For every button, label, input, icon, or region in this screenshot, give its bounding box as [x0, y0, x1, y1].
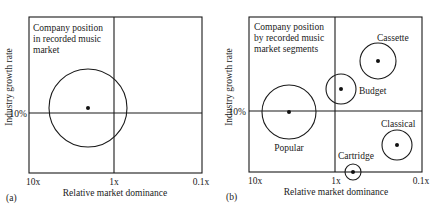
panel-title-line: in recorded music: [33, 34, 101, 44]
x-tick-a-0.1x: 0.1x: [193, 177, 210, 187]
x-tick-b-0.1x: 0.1x: [413, 176, 430, 186]
panel-title-line: by recorded music: [254, 33, 324, 43]
panel-b: Company position by recorded music marke…: [224, 17, 430, 203]
bubble-label-cartridge: Cartridge: [338, 151, 374, 161]
bubble-label-budget: Budget: [359, 86, 387, 96]
x-tick-b-10x: 10x: [248, 176, 263, 186]
x-tick-a-10x: 10x: [26, 177, 41, 187]
market-bubble-center: [86, 106, 90, 110]
bubble-popular-center: [287, 110, 291, 114]
panel-title-line: market segments: [254, 44, 318, 54]
panel-title-line: market: [33, 45, 60, 55]
bubble-budget-center: [339, 87, 343, 91]
x-tick-b-1x: 1x: [331, 176, 341, 186]
x-axis-label-a: Relative market dominance: [63, 188, 167, 198]
x-axis-label-b: Relative market dominance: [284, 187, 388, 197]
y-tick-b: 10%: [229, 107, 247, 117]
growth-share-diagram: Company position in recorded music marke…: [0, 0, 441, 211]
bubble-label-popular: Popular: [274, 143, 304, 153]
panel-title-line: Company position: [254, 22, 324, 32]
panel-a: Company position in recorded music marke…: [4, 17, 210, 204]
x-tick-a-1x: 1x: [109, 177, 119, 187]
bubble-cassette-center: [376, 59, 380, 63]
panel-label-b: (b): [226, 192, 237, 203]
y-tick-a: 10%: [10, 109, 28, 119]
bubble-cartridge-center: [351, 170, 355, 174]
panel-label-a: (a): [6, 193, 17, 204]
bubble-label-cassette: Cassette: [377, 33, 409, 43]
panel-title-line: Company position: [33, 23, 103, 33]
bubble-label-classical: Classical: [381, 119, 416, 129]
bubble-classical-center: [395, 143, 399, 147]
